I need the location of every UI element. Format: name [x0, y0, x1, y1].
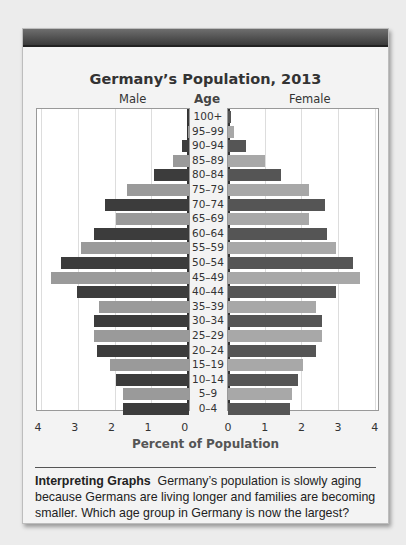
male-bar: [154, 169, 189, 181]
age-group-label: 0–4: [189, 402, 227, 414]
age-group-label: 65–69: [189, 212, 227, 224]
female-bar: [228, 301, 316, 313]
age-group-label: 30–34: [189, 314, 227, 326]
female-bar: [228, 257, 353, 269]
x-tick-male: 1: [141, 421, 155, 434]
age-group-label: 15–19: [189, 358, 227, 370]
age-group-label: 100+: [189, 110, 227, 122]
caption: Interpreting Graphs Germany’s population…: [35, 473, 380, 521]
age-group-label: 90–94: [189, 139, 227, 151]
age-label: Age: [194, 92, 220, 106]
chart-title: Germany’s Population, 2013: [23, 71, 388, 87]
male-bar: [123, 403, 189, 415]
male-bar: [94, 228, 189, 240]
male-bar: [99, 301, 189, 313]
female-bar: [228, 315, 322, 327]
female-bar: [228, 228, 327, 240]
male-bar: [105, 199, 189, 211]
female-bar: [228, 388, 292, 400]
x-tick-female: 4: [368, 421, 382, 434]
female-bar: [228, 403, 290, 415]
age-group-label: 25–29: [189, 329, 227, 341]
male-bar: [110, 359, 189, 371]
x-tick-female: 1: [258, 421, 272, 434]
age-group-label: 50–54: [189, 256, 227, 268]
age-group-label: 85–89: [189, 154, 227, 166]
x-tick-female: 3: [331, 421, 345, 434]
female-bar: [228, 184, 309, 196]
female-bar: [228, 155, 265, 167]
age-group-label: 45–49: [189, 271, 227, 283]
age-axis: 100+95–9990–9485–8980–8475–7970–7465–696…: [189, 108, 227, 409]
female-label: Female: [289, 92, 331, 106]
male-bar: [116, 374, 189, 386]
age-group-label: 55–59: [189, 241, 227, 253]
age-group-label: 70–74: [189, 198, 227, 210]
age-group-label: 10–14: [189, 373, 227, 385]
age-group-label: 20–24: [189, 344, 227, 356]
gridline: [41, 109, 42, 410]
x-tick-male: 2: [104, 421, 118, 434]
male-bar: [182, 140, 189, 152]
age-group-label: 60–64: [189, 227, 227, 239]
male-bar: [116, 213, 189, 225]
male-bar: [94, 330, 189, 342]
age-group-label: 40–44: [189, 285, 227, 297]
male-bar: [61, 257, 189, 269]
male-label: Male: [119, 92, 146, 106]
female-bar: [228, 359, 303, 371]
female-plot: [227, 108, 379, 411]
female-bar: [228, 140, 246, 152]
female-bar: [228, 272, 360, 284]
male-bar: [81, 242, 189, 254]
x-tick-female: 0: [221, 421, 235, 434]
x-tick-male: 0: [178, 421, 192, 434]
male-bar: [77, 286, 189, 298]
female-bar: [228, 286, 336, 298]
male-plot: [36, 108, 190, 411]
x-tick-male: 3: [68, 421, 82, 434]
header-bar: [23, 29, 388, 47]
age-group-label: 35–39: [189, 300, 227, 312]
male-bar: [173, 155, 190, 167]
female-bar: [228, 111, 231, 123]
female-bar: [228, 199, 325, 211]
female-bar: [228, 345, 316, 357]
female-bar: [228, 213, 309, 225]
male-bar: [97, 345, 189, 357]
age-group-label: 95–99: [189, 125, 227, 137]
age-group-label: 80–84: [189, 168, 227, 180]
male-bar: [51, 272, 189, 284]
x-axis-label: Percent of Population: [23, 437, 388, 451]
age-group-label: 75–79: [189, 183, 227, 195]
divider: [35, 467, 376, 468]
male-bar: [123, 388, 189, 400]
x-tick-female: 2: [294, 421, 308, 434]
female-bar: [228, 330, 322, 342]
age-group-label: 5–9: [189, 387, 227, 399]
gridline: [375, 109, 376, 410]
female-bar: [228, 126, 234, 138]
female-bar: [228, 242, 336, 254]
male-bar: [94, 315, 189, 327]
male-bar: [127, 184, 189, 196]
caption-heading: Interpreting Graphs: [35, 474, 151, 488]
female-bar: [228, 374, 298, 386]
female-bar: [228, 169, 281, 181]
x-tick-male: 4: [31, 421, 45, 434]
chart-card: Germany’s Population, 2013 Male Age Fema…: [22, 28, 389, 524]
